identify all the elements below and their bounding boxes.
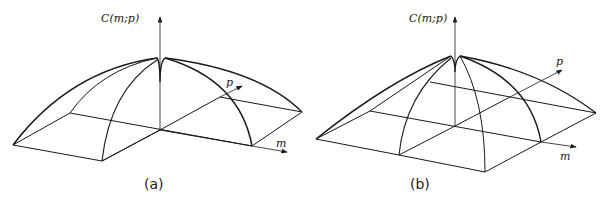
panel-b-z-axis-label: C(m;p) xyxy=(409,12,447,25)
panel-a-surface xyxy=(13,17,302,161)
panel-b-p-axis-label: p xyxy=(556,55,563,68)
panel-a-z-axis-label: C(m;p) xyxy=(101,12,139,25)
panel-b-m-axis-label: m xyxy=(560,150,570,163)
panel-a-m-axis-label: m xyxy=(276,137,286,150)
panel-a-p-axis-label: p xyxy=(226,76,233,89)
panel-b-surface xyxy=(316,17,596,172)
panel-b-caption: (b) xyxy=(410,176,430,192)
diagram-canvas xyxy=(0,0,604,204)
panel-a-caption: (a) xyxy=(144,176,164,192)
